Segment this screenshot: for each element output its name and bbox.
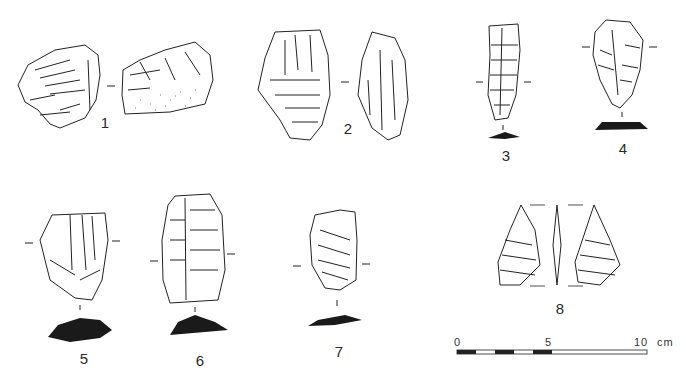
artifact-label-5: 5 xyxy=(74,350,94,367)
artifact-3-dorsal-view xyxy=(476,24,531,130)
artifact-1-ventral-view xyxy=(122,42,213,114)
section-7 xyxy=(308,315,362,326)
artifact-label-6: 6 xyxy=(190,352,210,369)
artifact-2-dorsal-view xyxy=(258,30,330,140)
artifact-label-1: 1 xyxy=(95,114,115,131)
artifact-4-dorsal-view xyxy=(582,20,657,117)
artifact-label-2: 2 xyxy=(338,120,358,137)
section-6 xyxy=(170,315,228,335)
artifact-8-profile-view xyxy=(553,205,561,285)
section-5 xyxy=(48,318,112,342)
artifact-label-3: 3 xyxy=(496,147,516,164)
artifact-1-dorsal-view xyxy=(18,45,100,128)
artifact-8-dorsal-view xyxy=(498,205,540,285)
artifact-label-4: 4 xyxy=(613,140,633,157)
scale-tick-5: 5 xyxy=(545,336,552,348)
artifact-2-lateral-view xyxy=(358,32,408,140)
scale-unit: cm xyxy=(657,336,674,348)
section-3 xyxy=(488,132,520,139)
scale-bar xyxy=(457,350,647,354)
artifact-8-ventral-view xyxy=(575,205,620,285)
artifact-plate-drawing xyxy=(0,0,686,383)
section-4 xyxy=(595,122,648,130)
artifact-6-dorsal-view xyxy=(150,194,235,312)
scale-tick-0: 0 xyxy=(454,336,461,348)
scale-tick-10: 10 xyxy=(634,336,648,348)
artifact-5-dorsal-view xyxy=(25,213,120,310)
artifact-label-8: 8 xyxy=(550,300,570,317)
artifact-label-7: 7 xyxy=(329,343,349,360)
artifact-7-dorsal-view xyxy=(293,210,370,306)
